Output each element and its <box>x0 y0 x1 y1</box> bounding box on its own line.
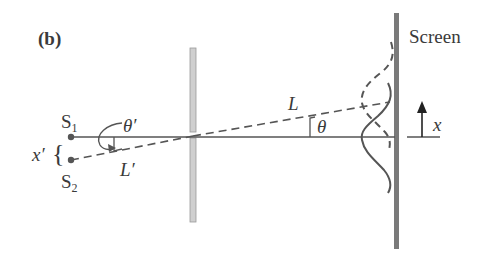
right-angle-mark <box>114 137 122 151</box>
screen-label: Screen <box>409 26 461 47</box>
s2-label: S2 <box>61 171 78 195</box>
source-ray-dashed <box>71 136 193 160</box>
intensity-curve-dashed <box>362 42 393 152</box>
source-s2-dot <box>68 157 74 163</box>
double-slit-diagram: (b) Screen S1 S2 x′ { θ′ L′ L θ x <box>0 0 497 254</box>
s1-label: S1 <box>61 111 78 135</box>
panel-label: (b) <box>38 28 61 50</box>
x-prime-label: x′ <box>31 144 45 165</box>
brace-icon: { <box>52 139 64 168</box>
l-label: L <box>287 93 299 114</box>
l-prime-label: L′ <box>119 159 136 180</box>
x-axis-label: x <box>432 114 442 135</box>
screen-bar <box>394 13 399 249</box>
theta-prime-label: θ′ <box>123 115 137 136</box>
intensity-curve-solid <box>362 83 391 193</box>
theta-label: θ <box>317 116 326 137</box>
up-arrow-icon <box>417 101 427 113</box>
theta-angle-mark <box>310 117 315 137</box>
